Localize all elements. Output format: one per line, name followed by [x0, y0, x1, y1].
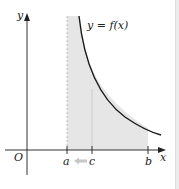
page-edge — [175, 0, 179, 189]
y-axis-arrow-icon — [24, 13, 30, 21]
x-axis-label: x — [160, 151, 167, 164]
shaded-area — [67, 16, 148, 150]
point-label-c: c — [89, 155, 95, 168]
improper-integral-figure: y = f(x) y x O a c b — [0, 0, 179, 189]
y-axis-label: y — [16, 9, 24, 22]
point-label-b: b — [145, 155, 152, 168]
curve-label: y = f(x) — [86, 19, 128, 32]
point-label-a: a — [63, 155, 70, 168]
left-arrow-icon — [74, 158, 87, 165]
origin-label: O — [14, 151, 23, 164]
